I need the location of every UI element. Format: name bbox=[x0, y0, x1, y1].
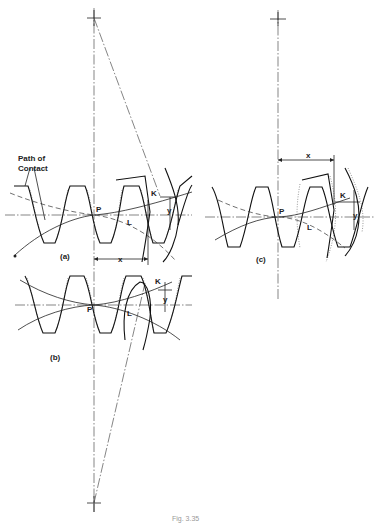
gear-tooth-contact-diagram: Path of Contact P K L y x (a) P L K y (b… bbox=[0, 0, 385, 525]
dim-y-b: y bbox=[163, 295, 168, 304]
figure-caption: Fig. 3.35 bbox=[172, 515, 199, 523]
dim-x-a: x bbox=[118, 255, 123, 264]
panel-c bbox=[205, 155, 375, 262]
point-k-c: K bbox=[340, 191, 346, 200]
pitch-point-c: P bbox=[279, 207, 285, 216]
point-l-c: L bbox=[307, 223, 312, 232]
panel-b bbox=[15, 276, 192, 350]
point-k-b: K bbox=[155, 277, 161, 286]
path-of-contact-label-2: Contact bbox=[18, 164, 48, 173]
point-l-a: L bbox=[127, 218, 132, 227]
path-of-contact-label-1: Path of bbox=[18, 154, 45, 163]
dim-y-a: y bbox=[167, 206, 172, 215]
panel-b-label: (b) bbox=[50, 353, 61, 362]
panel-c-label: (c) bbox=[256, 255, 266, 264]
panel-a-label: (a) bbox=[60, 252, 70, 261]
point-l-b: L bbox=[127, 309, 132, 318]
point-k-a: K bbox=[151, 189, 157, 198]
panel-a bbox=[5, 168, 192, 265]
pitch-point-a: P bbox=[96, 205, 102, 214]
dim-x-c: x bbox=[306, 151, 311, 160]
pitch-point-b: P bbox=[87, 305, 93, 314]
dim-y-c: y bbox=[353, 211, 358, 220]
